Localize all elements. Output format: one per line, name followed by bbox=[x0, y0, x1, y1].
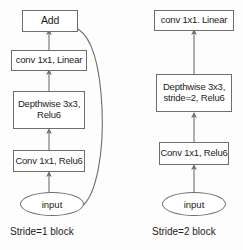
node-add[interactable]: Add bbox=[22, 10, 78, 32]
block-diagram-figure: Add conv 1x1, Linear Depthwise 3x3, Relu… bbox=[0, 0, 243, 250]
node-depthwise-stride1[interactable]: Depthwise 3x3, Relu6 bbox=[13, 91, 85, 129]
node-depthwise-stride2[interactable]: Depthwise 3x3, stride=2, Relu6 bbox=[156, 74, 232, 112]
node-input-stride2[interactable]: input bbox=[162, 192, 226, 216]
node-conv-in-stride1[interactable]: Conv 1x1, Relu6 bbox=[13, 150, 85, 172]
node-conv-in-stride2[interactable]: Conv 1x1, Relu6 bbox=[159, 142, 229, 165]
caption-stride2-block: Stride=2 block bbox=[152, 226, 216, 237]
caption-stride1-block: Stride=1 block bbox=[10, 226, 74, 237]
node-conv-out-linear-stride1[interactable]: conv 1x1, Linear bbox=[11, 50, 87, 71]
node-input-stride1[interactable]: input bbox=[20, 192, 84, 216]
node-conv-out-linear-stride2[interactable]: conv 1x1. Linear bbox=[154, 10, 234, 31]
